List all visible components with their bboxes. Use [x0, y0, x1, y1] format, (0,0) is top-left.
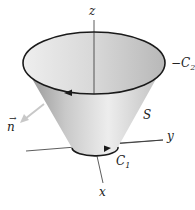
normal-vector-line	[25, 104, 44, 119]
y-axis-front	[120, 140, 163, 143]
x-axis-line	[97, 156, 103, 183]
top-curve-label: −C2	[171, 56, 195, 72]
y-axis-label: y	[166, 129, 174, 143]
normal-vector-arrow-icon	[20, 114, 29, 123]
bottom-curve-label: C1	[116, 154, 130, 170]
z-axis-label: z	[88, 4, 96, 18]
surface-label: S	[143, 108, 151, 122]
cone-surface-diagram: z y x S n → −C2 C1	[0, 0, 195, 210]
normal-arrow-accent-icon: →	[9, 113, 17, 123]
x-axis-label: x	[99, 185, 106, 199]
